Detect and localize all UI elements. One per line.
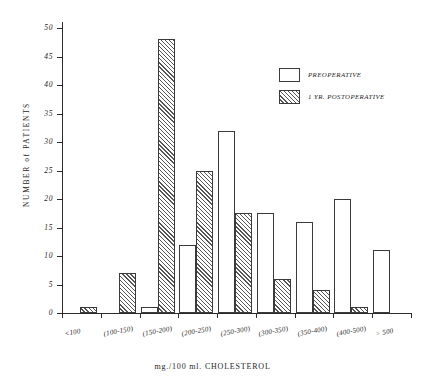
bar-preoperative-2 (141, 307, 158, 313)
y-tick-50 (57, 28, 62, 29)
y-tick-30 (57, 142, 62, 143)
legend-label-postoperative: 1 YR. POSTOPERATIVE (308, 93, 385, 100)
y-tick-label-25: 25 (13, 166, 53, 175)
y-tick-45 (57, 57, 62, 58)
bar-preoperative-4 (218, 131, 235, 313)
legend: PREOPERATIVE 1 YR. POSTOPERATIVE (279, 66, 385, 110)
legend-swatch-hatched-icon (279, 90, 300, 104)
legend-item-preoperative: PREOPERATIVE (279, 66, 385, 83)
legend-item-postoperative: 1 YR. POSTOPERATIVE (279, 88, 385, 105)
y-tick-15 (57, 228, 62, 229)
x-tick-label-8: > 500 (375, 327, 394, 338)
x-tick-8 (372, 313, 373, 318)
y-tick-label-40: 40 (13, 80, 53, 89)
x-tick-label-4: (250-300) (220, 325, 251, 338)
cholesterol-histogram: NUMBER of PATIENTS mg./100 ml. CHOLESTER… (0, 0, 425, 382)
bar-preoperative-6 (296, 222, 313, 313)
x-tick-label-3: (200-250) (181, 325, 212, 338)
x-tick-0 (62, 313, 63, 318)
bar-postoperative-3 (196, 171, 213, 314)
x-tick-6 (295, 313, 296, 318)
bar-preoperative-3 (179, 245, 196, 313)
legend-label-preoperative: PREOPERATIVE (308, 71, 361, 78)
bar-preoperative-5 (257, 213, 274, 313)
y-tick-40 (57, 85, 62, 86)
x-tick-9 (411, 313, 412, 318)
bar-postoperative-2 (158, 39, 175, 313)
x-tick-label-0: <100 (64, 327, 81, 338)
x-tick-3 (178, 313, 179, 318)
bar-postoperative-0 (80, 307, 97, 313)
y-tick-10 (57, 256, 62, 257)
y-tick-label-15: 15 (13, 223, 53, 232)
bar-postoperative-6 (313, 290, 330, 313)
x-tick-label-1: (100-150) (103, 325, 134, 338)
x-tick-label-2: (150-200) (142, 325, 173, 338)
x-axis-line (62, 313, 411, 314)
bar-postoperative-4 (235, 213, 252, 313)
x-tick-label-6: (350-400) (297, 325, 328, 338)
legend-swatch-open-icon (279, 68, 300, 82)
x-tick-2 (140, 313, 141, 318)
y-tick-20 (57, 199, 62, 200)
y-tick-35 (57, 114, 62, 115)
x-tick-4 (217, 313, 218, 318)
bar-postoperative-7 (351, 307, 368, 313)
x-tick-1 (101, 313, 102, 318)
y-axis-title: NUMBER of PATIENTS (22, 85, 31, 225)
y-tick-label-5: 5 (13, 280, 53, 289)
bar-preoperative-8 (373, 250, 390, 313)
y-tick-label-10: 10 (13, 251, 53, 260)
y-axis-line (62, 22, 63, 314)
x-tick-label-5: (300-350) (258, 325, 289, 338)
x-tick-5 (256, 313, 257, 318)
x-axis-title: mg./100 ml. CHOLESTEROL (0, 362, 425, 371)
y-tick-label-30: 30 (13, 137, 53, 146)
bar-postoperative-1 (119, 273, 136, 313)
y-tick-label-0: 0 (13, 308, 53, 317)
y-tick-label-35: 35 (13, 109, 53, 118)
bar-postoperative-5 (274, 279, 291, 313)
y-tick-label-45: 45 (13, 52, 53, 61)
y-tick-label-50: 50 (13, 23, 53, 32)
x-tick-7 (333, 313, 334, 318)
y-tick-label-20: 20 (13, 194, 53, 203)
y-tick-5 (57, 285, 62, 286)
bar-preoperative-7 (334, 199, 351, 313)
y-tick-25 (57, 171, 62, 172)
x-tick-label-7: (400-500) (336, 325, 367, 338)
